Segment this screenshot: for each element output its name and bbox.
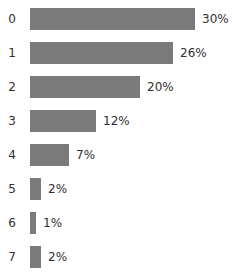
- category-label: 4: [0, 144, 24, 166]
- bar-track: [30, 178, 41, 200]
- bar-1[interactable]: [30, 42, 173, 64]
- value-label-1: 26%: [180, 42, 207, 64]
- value-label-5: 2%: [48, 178, 67, 200]
- category-label: 1: [0, 42, 24, 64]
- bar-5[interactable]: [30, 178, 41, 200]
- value-label-7: 2%: [48, 246, 67, 268]
- value-label-4: 7%: [76, 144, 95, 166]
- bar-chart: 0 30% 1 26% 2 20% 3 12% 4 7% 5: [0, 0, 238, 278]
- bar-track: [30, 42, 173, 64]
- category-label: 2: [0, 76, 24, 98]
- category-label: 6: [0, 212, 24, 234]
- bar-7[interactable]: [30, 246, 41, 268]
- value-label-0: 30%: [202, 8, 229, 30]
- bar-track: [30, 212, 36, 234]
- bar-track: [30, 246, 41, 268]
- bar-track: [30, 144, 69, 166]
- bar-3[interactable]: [30, 110, 96, 132]
- value-label-3: 12%: [103, 110, 130, 132]
- chart-bar-row: 6 1%: [0, 212, 238, 234]
- bar-0[interactable]: [30, 8, 195, 30]
- value-label-6: 1%: [43, 212, 62, 234]
- bar-track: [30, 8, 195, 30]
- chart-bar-row: 4 7%: [0, 144, 238, 166]
- category-label: 0: [0, 8, 24, 30]
- chart-bar-row: 0 30%: [0, 8, 238, 30]
- bar-2[interactable]: [30, 76, 140, 98]
- chart-bar-row: 3 12%: [0, 110, 238, 132]
- category-label: 3: [0, 110, 24, 132]
- chart-bar-row: 5 2%: [0, 178, 238, 200]
- chart-bar-row: 7 2%: [0, 246, 238, 268]
- chart-bar-row: 1 26%: [0, 42, 238, 64]
- bar-track: [30, 76, 140, 98]
- category-label: 5: [0, 178, 24, 200]
- bar-4[interactable]: [30, 144, 69, 166]
- value-label-2: 20%: [147, 76, 174, 98]
- bar-6[interactable]: [30, 212, 36, 234]
- chart-bar-row: 2 20%: [0, 76, 238, 98]
- category-label: 7: [0, 246, 24, 268]
- bar-track: [30, 110, 96, 132]
